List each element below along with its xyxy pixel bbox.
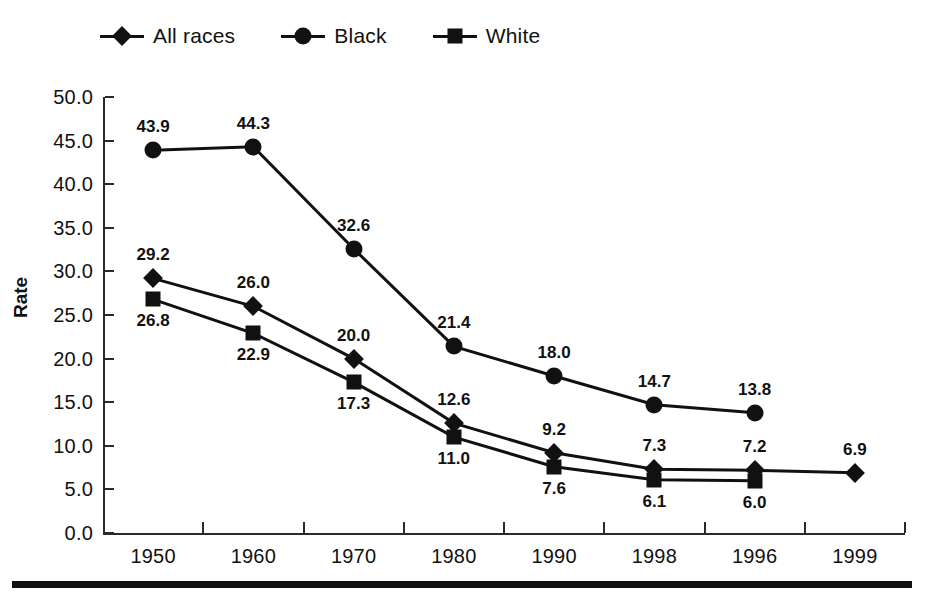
legend-label-black: Black: [334, 24, 386, 48]
data-point-label: 43.9: [136, 117, 170, 137]
y-axis-line: [103, 97, 105, 535]
y-tick-label: 50.0: [17, 86, 93, 109]
y-tick: [105, 445, 114, 447]
legend-label-white: White: [486, 24, 541, 48]
data-point-label: 6.0: [743, 493, 767, 513]
x-tick: [303, 522, 305, 533]
y-tick: [105, 401, 114, 403]
y-tick-label: 20.0: [17, 347, 93, 370]
bottom-divider-rule: [12, 581, 912, 588]
y-tick-label: 15.0: [17, 391, 93, 414]
data-point-square: [446, 430, 461, 445]
x-tick-label: 1960: [231, 545, 276, 568]
data-point-label: 32.6: [337, 216, 371, 236]
data-point-label: 7.3: [642, 436, 666, 456]
data-point-diamond: [143, 268, 163, 288]
data-point-label: 14.7: [638, 372, 672, 392]
x-tick-label: 1950: [130, 545, 175, 568]
data-point-circle: [646, 396, 663, 413]
data-point-circle: [345, 240, 362, 257]
y-tick-label: 25.0: [17, 304, 93, 327]
y-tick: [105, 314, 114, 316]
y-tick: [105, 532, 114, 534]
x-tick: [704, 522, 706, 533]
y-tick: [105, 270, 114, 272]
data-point-label: 29.2: [136, 245, 170, 265]
data-point-label: 11.0: [438, 449, 471, 469]
legend-item-all-races: All races: [100, 24, 235, 48]
y-tick: [105, 227, 114, 229]
data-point-circle: [746, 404, 763, 421]
data-point-square: [346, 375, 361, 390]
x-axis-line: [103, 533, 905, 535]
data-point-label: 6.1: [642, 492, 666, 512]
data-point-diamond: [243, 296, 263, 316]
data-point-label: 26.8: [136, 311, 170, 331]
x-tick: [603, 522, 605, 533]
x-tick-label: 1980: [431, 545, 476, 568]
data-point-square: [747, 473, 762, 488]
x-tick: [503, 522, 505, 533]
data-point-square: [146, 292, 161, 307]
data-point-square: [246, 326, 261, 341]
square-marker-icon: [433, 26, 477, 46]
x-tick-label: 1998: [632, 545, 677, 568]
series-lines: [0, 0, 928, 602]
data-point-label: 26.0: [237, 273, 271, 293]
legend-label-all-races: All races: [153, 24, 235, 48]
chart-figure: All races Black White Rate 50.045.040.03…: [0, 0, 928, 602]
data-point-label: 13.8: [738, 380, 772, 400]
data-point-label: 21.4: [437, 313, 471, 333]
y-tick: [105, 358, 114, 360]
y-tick: [105, 96, 114, 98]
x-tick: [904, 522, 906, 533]
x-tick-label: 1970: [331, 545, 376, 568]
data-point-circle: [245, 138, 262, 155]
y-tick: [105, 183, 114, 185]
y-tick: [105, 488, 114, 490]
x-tick-label: 1990: [531, 545, 576, 568]
data-point-circle: [546, 368, 563, 385]
x-tick-label: 1999: [832, 545, 877, 568]
data-point-label: 18.0: [537, 343, 571, 363]
y-tick-label: 10.0: [17, 434, 93, 457]
y-tick-label: 35.0: [17, 216, 93, 239]
legend-item-white: White: [433, 24, 541, 48]
y-tick-label: 5.0: [17, 478, 93, 501]
circle-marker-icon: [281, 26, 325, 46]
data-point-diamond: [344, 349, 364, 369]
x-tick: [202, 522, 204, 533]
data-point-circle: [445, 338, 462, 355]
y-tick: [105, 140, 114, 142]
data-point-label: 6.9: [843, 440, 867, 460]
y-tick-label: 40.0: [17, 173, 93, 196]
data-point-label: 17.3: [337, 394, 371, 414]
data-point-square: [547, 459, 562, 474]
data-point-label: 7.2: [743, 437, 767, 457]
x-tick-label: 1996: [732, 545, 777, 568]
data-point-circle: [145, 142, 162, 159]
diamond-marker-icon: [100, 26, 144, 46]
y-tick-label: 30.0: [17, 260, 93, 283]
data-point-diamond: [845, 463, 865, 483]
y-tick-label: 0.0: [17, 522, 93, 545]
x-tick: [804, 522, 806, 533]
x-tick: [403, 522, 405, 533]
data-point-label: 20.0: [337, 326, 371, 346]
data-point-label: 44.3: [237, 114, 271, 134]
legend-item-black: Black: [281, 24, 386, 48]
data-point-label: 9.2: [542, 420, 566, 440]
data-point-label: 22.9: [237, 345, 271, 365]
data-point-square: [647, 472, 662, 487]
data-point-label: 12.6: [437, 390, 471, 410]
chart-legend: All races Black White: [100, 18, 540, 54]
y-tick-label: 45.0: [17, 129, 93, 152]
data-point-label: 7.6: [542, 479, 566, 499]
